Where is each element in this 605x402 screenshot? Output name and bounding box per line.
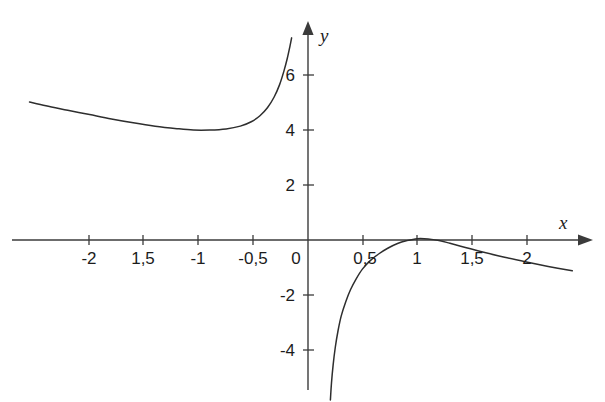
y-tick-label-2: 2: [275, 177, 295, 194]
x-tick-label--1: -1: [190, 250, 205, 267]
plot-canvas: [0, 0, 605, 402]
curve-left-branch: [30, 38, 292, 130]
y-tick-label--2: -2: [267, 287, 295, 304]
y-axis-arrow-icon: [302, 21, 313, 35]
x-tick-label--2: -2: [81, 250, 96, 267]
y-axis-label: y: [320, 26, 328, 45]
x-axis-label: x: [559, 213, 567, 232]
x-tick-label-1-5: 1,5: [460, 250, 484, 267]
x-tick-label-0-5: 0,5: [353, 250, 377, 267]
x-axis-arrow-icon: [578, 234, 593, 245]
x-tick-label-2: 2: [522, 250, 531, 267]
y-tick-label-6: 6: [275, 67, 295, 84]
x-tick-label--0-5: -0,5: [238, 250, 267, 267]
function-graph: -2 1,5 -1 -0,5 0 0,5 1 1,5 2 6 4 2 -2 -4…: [0, 0, 605, 402]
y-tick-label--4: -4: [267, 342, 295, 359]
x-tick-label--1-5: 1,5: [131, 250, 155, 267]
x-tick-label-0: 0: [291, 250, 300, 267]
y-tick-label-4: 4: [275, 122, 295, 139]
x-tick-label-1: 1: [412, 250, 421, 267]
